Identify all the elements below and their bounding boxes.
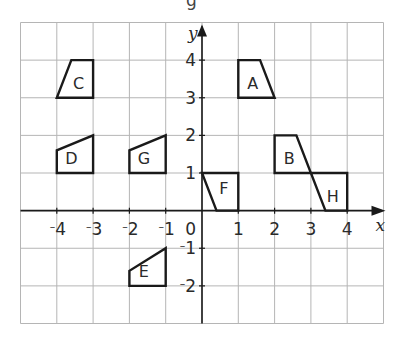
shape-c: C [57,60,93,98]
y-tick-label: 2 [185,125,196,145]
shape-e: E [129,248,165,286]
x-tick-label: –4 [50,219,66,239]
x-tick-label: 1 [233,219,244,239]
x-tick-label: –1 [159,219,175,239]
x-tick-label: 3 [305,219,316,239]
shape-label: G [138,149,150,168]
shape-label: E [139,262,149,281]
x-axis-label: x [376,215,386,235]
shape-f: F [202,173,238,211]
shape-b: B [275,135,311,173]
y-axis-arrow-icon [197,25,207,37]
x-tick-label: 2 [269,219,280,239]
y-tick-label: 3 [185,88,196,108]
y-tick-label: 4 [185,50,196,70]
cropped-title-text: g [186,0,197,10]
shape-g: G [129,135,165,173]
y-tick-label: –1 [180,238,196,258]
x-tick-label: –3 [86,219,102,239]
y-tick-label: 1 [185,163,196,183]
shape-label: B [284,149,295,168]
shape-label: H [327,187,339,206]
coordinate-grid-diagram: g xy –4–3–2–112344321–1–20 ABCDEFGH [0,0,400,340]
shape-label: A [247,74,258,93]
shape-label: C [73,74,84,93]
y-tick-label: –2 [180,276,196,296]
shape-a: A [238,60,274,98]
shape-d: D [57,135,93,173]
shape-h: H [311,173,347,211]
shape-label: D [65,149,77,168]
x-tick-label: 4 [342,219,353,239]
y-axis-label: y [187,23,198,43]
origin-label: 0 [185,219,196,239]
x-tick-label: –2 [122,219,138,239]
shape-label: F [219,179,228,198]
